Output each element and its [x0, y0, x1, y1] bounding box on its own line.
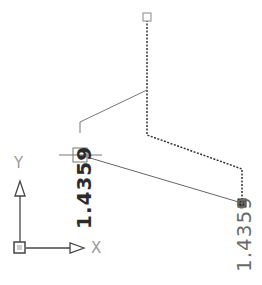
dimension-text-preview: 1.4359 [232, 196, 256, 272]
ucs-y-label: Y [14, 154, 23, 172]
ucs-x-label: X [91, 239, 101, 257]
drawing-geometry [0, 0, 262, 285]
dimension-text-bold: 1.4359 [72, 146, 96, 229]
selected-dashed-polyline[interactable] [147, 20, 242, 203]
solid-leader-line[interactable] [80, 90, 147, 133]
rubber-band-line [80, 155, 242, 203]
cad-drawing-canvas[interactable]: 1.4359 1.4359 Y X [0, 0, 262, 285]
grip-top[interactable] [143, 13, 151, 21]
